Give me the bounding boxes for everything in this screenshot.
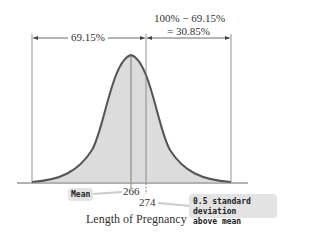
arrowhead-right-start bbox=[147, 36, 152, 40]
tick-label-274: 274 bbox=[139, 196, 156, 208]
x-axis-label: Length of Pregnancy bbox=[86, 212, 187, 227]
curve-fill bbox=[32, 55, 231, 182]
left-region-label: 69.15% bbox=[71, 31, 105, 43]
callout-sd-line2: above mean bbox=[193, 217, 273, 227]
right-region-label-line1: 100% − 69.15% bbox=[154, 12, 225, 24]
arrowhead-right-end bbox=[225, 36, 230, 40]
callout-mean: Mean bbox=[68, 188, 93, 201]
right-region-label-line2: = 30.85% bbox=[167, 25, 210, 37]
callout-sd: 0.5 standard deviation above mean bbox=[189, 194, 277, 218]
callout-mean-text: Mean bbox=[71, 190, 90, 199]
callout-sd-line1: 0.5 standard deviation bbox=[193, 197, 273, 217]
callout-sd-connector bbox=[158, 203, 190, 206]
arrowhead-left bbox=[33, 36, 38, 40]
callout-mean-connector bbox=[92, 192, 122, 194]
arrowhead-left-end bbox=[140, 36, 145, 40]
tick-label-266: 266 bbox=[123, 185, 140, 197]
